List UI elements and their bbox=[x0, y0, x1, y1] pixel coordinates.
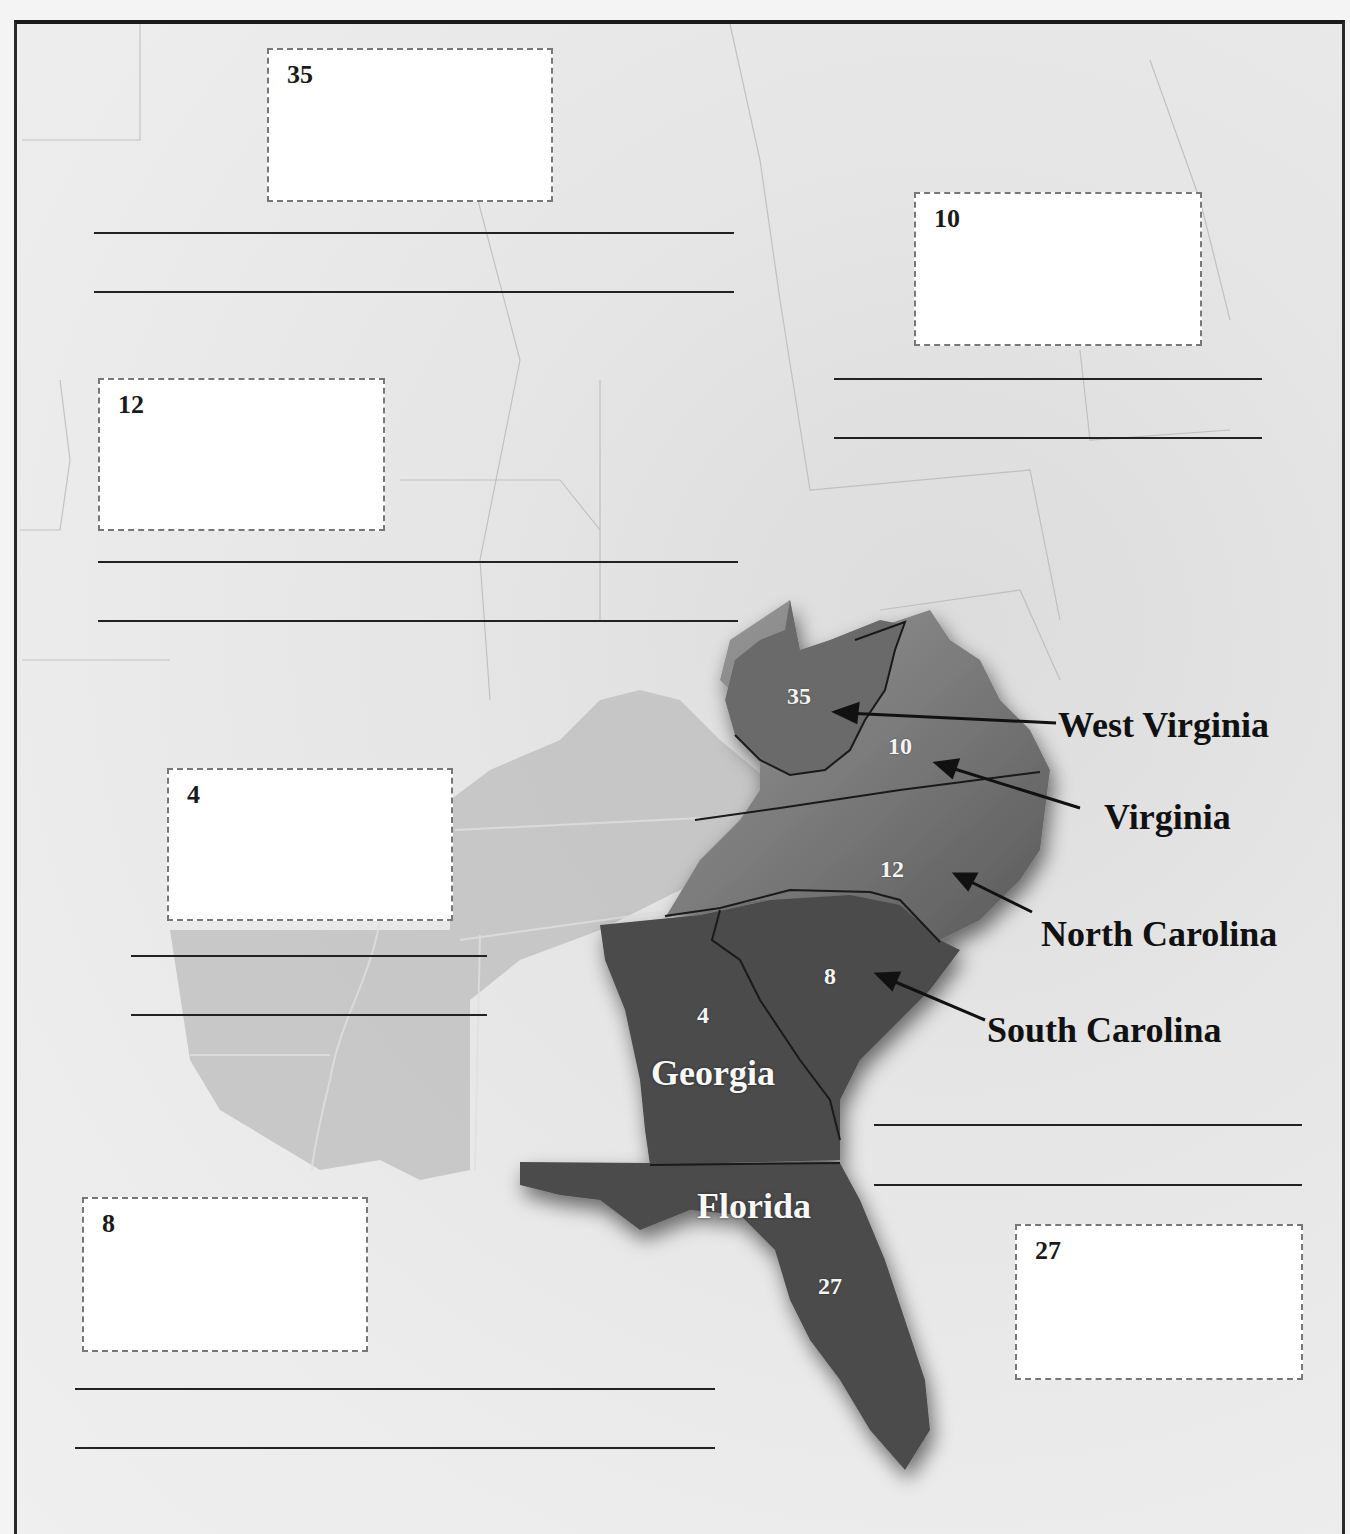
answer-box-8[interactable]: 8 bbox=[82, 1197, 368, 1352]
callout-virginia: Virginia bbox=[1104, 796, 1231, 838]
state-number-label: 4 bbox=[697, 1002, 709, 1029]
state-name-georgia: Georgia bbox=[651, 1052, 775, 1094]
answer-line[interactable] bbox=[131, 955, 487, 957]
answer-line[interactable] bbox=[98, 561, 738, 563]
answer-line[interactable] bbox=[94, 232, 734, 234]
answer-box-number: 4 bbox=[187, 780, 200, 810]
state-number-label: 10 bbox=[888, 733, 912, 760]
answer-line[interactable] bbox=[834, 378, 1262, 380]
state-name-florida: Florida bbox=[697, 1185, 811, 1227]
answer-box-12[interactable]: 12 bbox=[98, 378, 385, 531]
state-number-label: 27 bbox=[818, 1273, 842, 1300]
background-borders bbox=[20, 24, 1230, 700]
callout-south-carolina: South Carolina bbox=[987, 1009, 1221, 1051]
answer-line[interactable] bbox=[874, 1184, 1302, 1186]
answer-box-27[interactable]: 27 bbox=[1015, 1224, 1303, 1380]
answer-box-number: 8 bbox=[102, 1209, 115, 1239]
answer-line[interactable] bbox=[98, 620, 738, 622]
answer-line[interactable] bbox=[75, 1388, 715, 1390]
answer-line[interactable] bbox=[131, 1014, 487, 1016]
answer-box-number: 35 bbox=[287, 60, 313, 90]
answer-line[interactable] bbox=[874, 1124, 1302, 1126]
answer-box-10[interactable]: 10 bbox=[914, 192, 1202, 346]
state-number-label: 12 bbox=[880, 856, 904, 883]
answer-line[interactable] bbox=[75, 1447, 715, 1449]
callout-north-carolina: North Carolina bbox=[1041, 913, 1277, 955]
state-number-label: 35 bbox=[787, 683, 811, 710]
answer-box-35[interactable]: 35 bbox=[267, 48, 553, 202]
state-number-label: 8 bbox=[824, 963, 836, 990]
answer-box-4[interactable]: 4 bbox=[167, 768, 453, 921]
answer-box-number: 12 bbox=[118, 390, 144, 420]
answer-line[interactable] bbox=[94, 291, 734, 293]
answer-box-number: 27 bbox=[1035, 1236, 1061, 1266]
answer-line[interactable] bbox=[834, 437, 1262, 439]
answer-box-number: 10 bbox=[934, 204, 960, 234]
callout-west-virginia: West Virginia bbox=[1058, 704, 1269, 746]
